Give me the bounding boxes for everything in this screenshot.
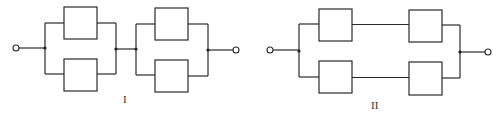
component-box bbox=[155, 8, 188, 40]
component-box bbox=[64, 59, 97, 91]
component-box bbox=[155, 60, 188, 92]
component-box bbox=[319, 9, 352, 41]
component-box bbox=[319, 61, 352, 93]
output-terminal-ii bbox=[485, 49, 491, 55]
input-terminal-ii bbox=[267, 47, 273, 53]
diagram-ii bbox=[267, 9, 491, 95]
output-terminal-i bbox=[233, 47, 239, 53]
component-box bbox=[409, 62, 442, 95]
component-box bbox=[64, 7, 97, 39]
component-box bbox=[409, 10, 442, 42]
reliability-diagrams bbox=[0, 0, 500, 114]
input-terminal-i bbox=[13, 45, 19, 51]
diagram-i bbox=[13, 7, 239, 92]
diagram-label-ii: II bbox=[371, 99, 378, 111]
diagram-label-i: I bbox=[123, 93, 127, 105]
